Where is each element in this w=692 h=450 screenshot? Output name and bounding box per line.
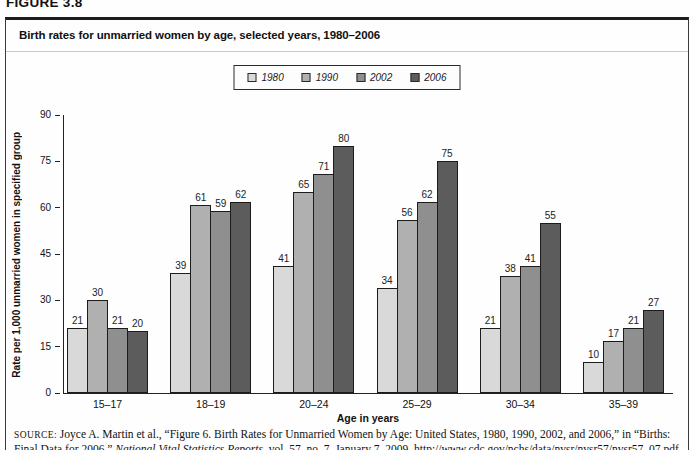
bar-1990: 61 [190, 205, 211, 393]
legend-swatch-icon [410, 73, 419, 82]
legend-item: 1980 [248, 72, 284, 83]
bar-2002: 41 [520, 266, 541, 393]
bar-value-label: 34 [382, 275, 393, 286]
bar-1980: 41 [273, 266, 294, 393]
y-axis-tick-label: 15 [27, 341, 51, 352]
bar-value-label: 59 [215, 198, 226, 209]
source-journal-title: National Vital Statistics Reports [115, 443, 263, 450]
bar-2006: 62 [230, 202, 251, 394]
bar-1980: 34 [377, 288, 398, 393]
source-label: SOURCE: [14, 430, 57, 440]
bar-2006: 27 [643, 310, 664, 393]
bar-value-label: 62 [235, 189, 246, 200]
bar-group-25-29: 3456627525–29 [377, 115, 458, 393]
y-axis-tick-mark [55, 161, 60, 162]
bar-1980: 10 [583, 362, 604, 393]
bar-value-label: 38 [505, 263, 516, 274]
y-axis-tick-mark [55, 254, 60, 255]
legend-swatch-icon [248, 73, 257, 82]
bar-2002: 62 [417, 202, 438, 394]
y-axis-tick-mark [55, 300, 60, 301]
x-axis-category-label: 25–29 [402, 398, 431, 410]
bar-group-30-34: 2138415530–34 [480, 115, 561, 393]
bar-value-label: 27 [648, 297, 659, 308]
legend-swatch-icon [356, 73, 365, 82]
bar-value-label: 41 [525, 253, 536, 264]
bar-2006: 75 [437, 161, 458, 393]
y-axis-tick-label: 30 [27, 294, 51, 305]
bar-group-20-24: 4165718020–24 [273, 115, 354, 393]
bar-1990: 38 [500, 276, 521, 393]
bar-value-label: 21 [112, 315, 123, 326]
title-divider [6, 51, 688, 52]
source-citation: SOURCE: Joyce A. Martin et al., “Figure … [14, 427, 680, 450]
bar-2002: 21 [623, 328, 644, 393]
bar-value-label: 30 [92, 287, 103, 298]
bar-2002: 21 [107, 328, 128, 393]
bar-1980: 39 [170, 273, 191, 393]
y-axis-tick-mark [55, 207, 60, 208]
bar-1990: 65 [293, 192, 314, 393]
chart-title: Birth rates for unmarried women by age, … [19, 29, 380, 41]
x-axis-category-label: 35–39 [609, 398, 638, 410]
y-axis-tick-mark [55, 393, 60, 394]
legend-label: 2002 [370, 72, 392, 83]
bar-group-35-39: 1017212735–39 [583, 115, 664, 393]
bar-value-label: 75 [442, 148, 453, 159]
legend-item: 1990 [302, 72, 338, 83]
bar-value-label: 61 [195, 192, 206, 203]
bar-value-label: 65 [298, 179, 309, 190]
bar-1980: 21 [67, 328, 88, 393]
legend-item: 2006 [410, 72, 446, 83]
bar-value-label: 41 [278, 253, 289, 264]
bar-value-label: 71 [318, 161, 329, 172]
bar-2006: 55 [540, 223, 561, 393]
legend-swatch-icon [302, 73, 311, 82]
bar-1980: 21 [480, 328, 501, 393]
x-axis-category-label: 18–19 [196, 398, 225, 410]
bar-value-label: 80 [338, 133, 349, 144]
bar-2002: 71 [313, 174, 334, 393]
y-axis-tick-label: 45 [27, 248, 51, 259]
figure-page: FIGURE 3.8 Birth rates for unmarried wom… [0, 0, 692, 450]
bar-2006: 80 [333, 146, 354, 393]
legend: 1980199020022006 [234, 65, 461, 90]
bar-group-18-19: 3961596218–19 [170, 115, 251, 393]
y-axis-tick-label: 75 [27, 155, 51, 166]
bar-value-label: 21 [485, 315, 496, 326]
bar-value-label: 21 [628, 315, 639, 326]
y-axis-label-wrap: Rate per 1,000 unmarried women in specif… [8, 115, 24, 394]
bar-value-label: 20 [132, 318, 143, 329]
figure-box: Birth rates for unmarried women by age, … [5, 17, 689, 450]
y-axis-tick-label: 60 [27, 202, 51, 213]
figure-number-label: FIGURE 3.8 [6, 0, 83, 10]
legend-label: 1990 [316, 72, 338, 83]
bar-value-label: 62 [422, 189, 433, 200]
y-axis-tick-label: 90 [27, 109, 51, 120]
x-axis-label: Age in years [63, 412, 673, 424]
bar-value-label: 17 [608, 328, 619, 339]
legend-label: 2006 [424, 72, 446, 83]
x-axis-category-label: 15–17 [93, 398, 122, 410]
bar-value-label: 21 [72, 315, 83, 326]
bar-2006: 20 [127, 331, 148, 393]
bar-value-label: 39 [175, 260, 186, 271]
plot-area: 01530456075902130212015–173961596218–194… [63, 115, 673, 394]
y-axis-tick-label: 0 [27, 387, 51, 398]
y-axis-tick-mark [55, 346, 60, 347]
bar-2002: 59 [210, 211, 231, 393]
bar-1990: 17 [603, 341, 624, 394]
bar-group-15-17: 2130212015–17 [67, 115, 148, 393]
y-axis-tick-mark [55, 115, 60, 116]
bar-1990: 56 [397, 220, 418, 393]
x-axis-category-label: 20–24 [299, 398, 328, 410]
bar-value-label: 55 [545, 210, 556, 221]
x-axis-category-label: 30–34 [506, 398, 535, 410]
legend-label: 1980 [262, 72, 284, 83]
legend-item: 2002 [356, 72, 392, 83]
bar-value-label: 10 [588, 349, 599, 360]
bar-1990: 30 [87, 300, 108, 393]
y-axis-label: Rate per 1,000 unmarried women in specif… [11, 132, 22, 378]
bar-value-label: 56 [402, 207, 413, 218]
